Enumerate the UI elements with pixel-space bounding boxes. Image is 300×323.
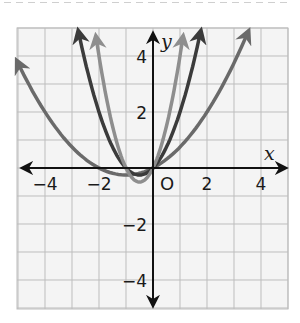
x-tick-label: 2: [202, 174, 213, 194]
y-tick-label: 2: [136, 103, 147, 123]
y-tick-label: −4: [122, 271, 147, 291]
y-axis-label: y: [160, 30, 172, 52]
x-axis-label: x: [264, 142, 275, 164]
y-tick-label: −2: [122, 215, 147, 235]
y-tick-label: 4: [136, 47, 147, 67]
origin-label: O: [160, 173, 174, 194]
x-tick-label: −4: [32, 174, 57, 194]
x-tick-label: −2: [86, 174, 111, 194]
coordinate-plane: −4−224 42−2−4 x y O: [0, 0, 300, 323]
x-tick-label: 4: [256, 174, 267, 194]
